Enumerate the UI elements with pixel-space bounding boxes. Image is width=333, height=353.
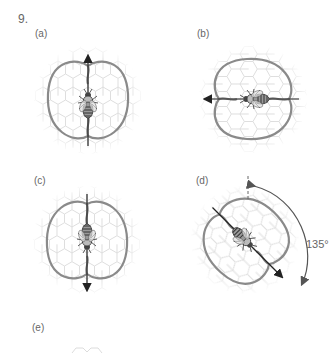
panel-e-diagram (72, 348, 102, 353)
figure-number: 9. (18, 12, 28, 26)
panel-c-diagram (31, 184, 143, 296)
panel-b-diagram (197, 43, 309, 155)
panel-b-label: (b) (197, 28, 209, 39)
panel-d-diagram (166, 161, 324, 319)
waggle-dance-figure (0, 0, 333, 353)
panel-a-diagram (32, 44, 144, 156)
angle-label: 135° (306, 238, 329, 250)
panel-c-label: (c) (34, 175, 46, 186)
panel-e-label: (e) (32, 322, 44, 333)
panel-d-label: (d) (196, 175, 208, 186)
panel-a-label: (a) (35, 28, 47, 39)
